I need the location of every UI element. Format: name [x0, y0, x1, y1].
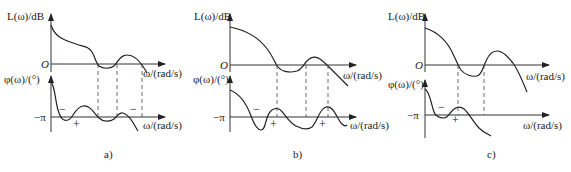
magnitude-axis-label: L(ω)/dB — [388, 10, 425, 23]
omega-axis-label-top: ω/(rad/s) — [343, 69, 382, 82]
panel-a: L(ω)/dB O ω/(rad/s) φ(ω)/(°) −π ω/(rad/s… — [4, 10, 182, 161]
origin-label: O — [415, 59, 423, 71]
phase-axis-label: φ(ω)/(°) — [388, 78, 424, 91]
minus-pi-label: −π — [407, 109, 419, 121]
positive-crossing-sign: + — [73, 117, 80, 131]
phase-curve — [230, 90, 347, 130]
panel-caption: a) — [104, 148, 113, 161]
panel-c: L(ω)/dB O ω/(rad/s) φ(ω)/(°) −π ω/(rad/s… — [388, 10, 565, 161]
magnitude-curve — [230, 27, 348, 86]
positive-crossing-sign: + — [319, 117, 326, 131]
panel-caption: c) — [487, 148, 496, 161]
magnitude-curve — [425, 28, 527, 92]
phase-axis-label: φ(ω)/(°) — [193, 73, 229, 86]
minus-pi-label: −π — [213, 111, 225, 123]
omega-axis-label-top: ω/(rad/s) — [143, 67, 182, 80]
bode-diagram-figure: L(ω)/dB O ω/(rad/s) φ(ω)/(°) −π ω/(rad/s… — [0, 0, 571, 172]
negative-crossing-sign: − — [130, 102, 137, 116]
phase-axis-label: φ(ω)/(°) — [4, 73, 40, 86]
origin-label: O — [220, 59, 228, 71]
positive-crossing-sign: + — [270, 117, 277, 131]
panel-caption: b) — [293, 148, 303, 161]
magnitude-curve — [51, 25, 147, 73]
panel-b: L(ω)/dB O ω/(rad/s) φ(ω)/(°) −π ω/(rad/s… — [193, 10, 389, 161]
omega-axis-label-bottom: ω/(rad/s) — [143, 119, 182, 132]
positive-crossing-sign: + — [452, 113, 459, 127]
negative-crossing-sign: − — [438, 100, 445, 114]
negative-crossing-sign: − — [59, 102, 66, 116]
minus-pi-label: −π — [34, 111, 46, 123]
omega-axis-label-bottom: ω/(rad/s) — [350, 119, 389, 132]
origin-label: O — [41, 58, 49, 70]
magnitude-axis-label: L(ω)/dB — [7, 10, 44, 23]
negative-crossing-sign: − — [253, 102, 260, 116]
omega-axis-label-bottom: ω/(rad/s) — [523, 119, 562, 132]
omega-axis-label-top: ω/(rad/s) — [526, 70, 565, 83]
magnitude-axis-label: L(ω)/dB — [194, 10, 231, 23]
